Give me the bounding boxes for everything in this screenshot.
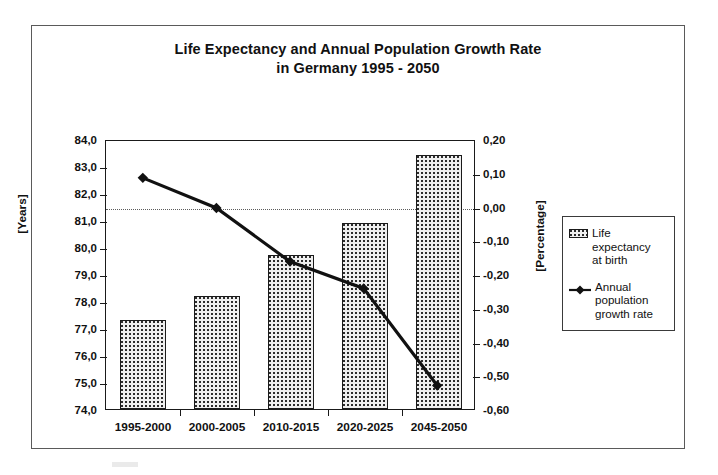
chart-title: Life Expectancy and Annual Population Gr… [32, 40, 684, 78]
chart-title-line1: Life Expectancy and Annual Population Gr… [175, 41, 542, 57]
y-tick-label-left: 76,0 [75, 351, 97, 362]
x-tick [254, 409, 255, 416]
y-tick-right [473, 209, 480, 210]
x-tick-label-2045-2050: 2045-2050 [411, 420, 467, 434]
x-tick-label-2020-2025: 2020-2025 [337, 420, 393, 434]
x-tick-label-1995-2000: 1995-2000 [115, 420, 171, 434]
y-tick-right [473, 377, 480, 378]
y-tick-right [473, 276, 480, 277]
y-tick-right [473, 242, 480, 243]
x-tick-label-2000-2005: 2000-2005 [189, 420, 245, 434]
legend-label-life-expectancy: Life expectancy at birth [592, 226, 651, 267]
y-axis-title-right: [Percentage] [533, 200, 547, 271]
plot-area: 84,083,082,081,080,079,078,077,076,075,0… [105, 140, 475, 410]
y-tick-label-left: 82,0 [75, 189, 97, 200]
y-tick-label-left: 78,0 [75, 297, 97, 308]
y-tick-label-right: -0,10 [483, 236, 509, 247]
y-tick-label-left: 77,0 [75, 324, 97, 335]
y-axis-title-left: [Years] [15, 194, 29, 233]
y-tick-right [473, 175, 480, 176]
y-tick-label-left: 74,0 [75, 405, 97, 416]
legend-item-growth-rate: Annual population growth rate [569, 280, 668, 321]
chart-figure: Life Expectancy and Annual Population Gr… [31, 25, 685, 449]
legend-label-line1: Life [592, 226, 611, 239]
legend-label-line3: growth rate [595, 307, 653, 320]
y-tick-label-right: -0,40 [483, 338, 509, 349]
x-tick [328, 409, 329, 416]
y-tick-label-right: 0,20 [483, 135, 505, 146]
y-tick-left [100, 357, 107, 358]
x-tick [402, 409, 403, 416]
x-tick-label-2010-2015: 2010-2015 [263, 420, 319, 434]
y-tick-label-left: 80,0 [75, 243, 97, 254]
line-series [106, 141, 474, 409]
legend-label-growth-rate: Annual population growth rate [595, 280, 653, 321]
x-tick [180, 409, 181, 416]
legend-label-line1: Annual [595, 280, 631, 293]
y-tick-label-right: -0,20 [483, 270, 509, 281]
legend-label-line3: at birth [592, 253, 627, 266]
y-tick-label-right: 0,10 [483, 169, 505, 180]
chart-title-line2: in Germany 1995 - 2050 [32, 59, 684, 78]
y-tick-label-right: 0,00 [483, 203, 505, 214]
hatched-square-icon [569, 229, 588, 238]
y-tick-label-right: -0,30 [483, 304, 509, 315]
y-tick-label-left: 75,0 [75, 378, 97, 389]
growth-rate-line [143, 178, 437, 386]
data-point-1995-2000 [138, 173, 148, 183]
y-tick-label-right: -0,50 [483, 371, 509, 382]
legend-item-life-expectancy: Life expectancy at birth [569, 226, 668, 267]
y-tick-left [100, 384, 107, 385]
y-tick-right [473, 344, 480, 345]
y-tick-label-left: 81,0 [75, 216, 97, 227]
y-tick-left [100, 330, 107, 331]
y-tick-left [100, 276, 107, 277]
y-tick-label-left: 79,0 [75, 270, 97, 281]
y-tick-left [100, 195, 107, 196]
y-tick-right [473, 310, 480, 311]
chart-legend: Life expectancy at birth Annual populati… [562, 216, 675, 331]
y-tick-label-left: 84,0 [75, 135, 97, 146]
y-tick-label-left: 83,0 [75, 162, 97, 173]
y-tick-left [100, 168, 107, 169]
legend-label-line2: population [595, 293, 649, 306]
y-tick-left [100, 303, 107, 304]
diamond-line-icon [569, 282, 591, 294]
y-tick-left [100, 249, 107, 250]
y-tick-label-right: -0,60 [483, 405, 509, 416]
legend-label-line2: expectancy [592, 240, 651, 253]
scan-artifact [112, 462, 138, 467]
y-tick-left [100, 222, 107, 223]
